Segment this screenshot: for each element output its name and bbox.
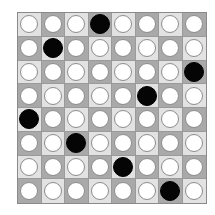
filled-piece-icon[interactable] [19,109,39,129]
empty-piece-icon[interactable] [161,15,179,33]
board-cell-r1-c4[interactable] [112,37,136,61]
board-cell-r0-c2[interactable] [65,13,89,37]
board-cell-r4-c2[interactable] [65,108,89,132]
empty-piece-icon[interactable] [161,134,179,152]
empty-piece-icon[interactable] [20,182,38,200]
empty-piece-icon[interactable] [138,39,156,57]
board-cell-r3-c2[interactable] [65,84,89,108]
board-cell-r1-c7[interactable] [183,37,207,61]
empty-piece-icon[interactable] [161,110,179,128]
empty-piece-icon[interactable] [67,110,85,128]
board-cell-r7-c0[interactable] [18,179,42,203]
board-cell-r6-c6[interactable] [159,156,183,180]
empty-piece-icon[interactable] [161,63,179,81]
empty-piece-icon[interactable] [91,87,109,105]
board-cell-r6-c4[interactable] [112,156,136,180]
empty-piece-icon[interactable] [161,87,179,105]
board-cell-r3-c4[interactable] [112,84,136,108]
filled-piece-icon[interactable] [66,133,86,153]
board-cell-r0-c7[interactable] [183,13,207,37]
board-cell-r5-c0[interactable] [18,132,42,156]
empty-piece-icon[interactable] [138,63,156,81]
board-cell-r0-c6[interactable] [159,13,183,37]
board-cell-r2-c3[interactable] [89,61,113,85]
board-cell-r2-c7[interactable] [183,61,207,85]
empty-piece-icon[interactable] [185,182,203,200]
empty-piece-icon[interactable] [138,110,156,128]
empty-piece-icon[interactable] [114,15,132,33]
board-cell-r3-c7[interactable] [183,84,207,108]
board-cell-r6-c5[interactable] [136,156,160,180]
empty-piece-icon[interactable] [67,63,85,81]
empty-piece-icon[interactable] [114,182,132,200]
empty-piece-icon[interactable] [91,110,109,128]
board-cell-r6-c0[interactable] [18,156,42,180]
board-cell-r5-c4[interactable] [112,132,136,156]
empty-piece-icon[interactable] [185,110,203,128]
empty-piece-icon[interactable] [44,110,62,128]
board-cell-r7-c5[interactable] [136,179,160,203]
empty-piece-icon[interactable] [185,158,203,176]
empty-piece-icon[interactable] [138,134,156,152]
board-cell-r1-c2[interactable] [65,37,89,61]
filled-piece-icon[interactable] [113,157,133,177]
board-cell-r5-c2[interactable] [65,132,89,156]
empty-piece-icon[interactable] [114,39,132,57]
board-cell-r7-c7[interactable] [183,179,207,203]
empty-piece-icon[interactable] [20,63,38,81]
board-cell-r3-c3[interactable] [89,84,113,108]
board-cell-r2-c5[interactable] [136,61,160,85]
empty-piece-icon[interactable] [20,39,38,57]
board-cell-r5-c5[interactable] [136,132,160,156]
board-cell-r2-c2[interactable] [65,61,89,85]
empty-piece-icon[interactable] [91,182,109,200]
empty-piece-icon[interactable] [114,87,132,105]
board-cell-r5-c6[interactable] [159,132,183,156]
board-cell-r0-c5[interactable] [136,13,160,37]
board-cell-r2-c0[interactable] [18,61,42,85]
board-cell-r1-c6[interactable] [159,37,183,61]
empty-piece-icon[interactable] [44,182,62,200]
board-cell-r1-c0[interactable] [18,37,42,61]
board-cell-r4-c7[interactable] [183,108,207,132]
board-cell-r7-c2[interactable] [65,179,89,203]
board-cell-r6-c3[interactable] [89,156,113,180]
board-cell-r7-c3[interactable] [89,179,113,203]
empty-piece-icon[interactable] [185,15,203,33]
board-cell-r5-c3[interactable] [89,132,113,156]
empty-piece-icon[interactable] [44,63,62,81]
board-cell-r4-c0[interactable] [18,108,42,132]
empty-piece-icon[interactable] [44,87,62,105]
empty-piece-icon[interactable] [44,158,62,176]
empty-piece-icon[interactable] [20,134,38,152]
board-cell-r7-c4[interactable] [112,179,136,203]
board-cell-r1-c5[interactable] [136,37,160,61]
empty-piece-icon[interactable] [91,63,109,81]
filled-piece-icon[interactable] [160,181,180,201]
board-cell-r3-c6[interactable] [159,84,183,108]
filled-piece-icon[interactable] [184,62,204,82]
board-cell-r4-c4[interactable] [112,108,136,132]
board-cell-r4-c1[interactable] [42,108,66,132]
board-cell-r5-c7[interactable] [183,132,207,156]
board-cell-r2-c1[interactable] [42,61,66,85]
empty-piece-icon[interactable] [161,158,179,176]
empty-piece-icon[interactable] [67,15,85,33]
board-cell-r2-c4[interactable] [112,61,136,85]
empty-piece-icon[interactable] [114,134,132,152]
board-cell-r0-c4[interactable] [112,13,136,37]
board-cell-r2-c6[interactable] [159,61,183,85]
filled-piece-icon[interactable] [137,86,157,106]
empty-piece-icon[interactable] [161,39,179,57]
empty-piece-icon[interactable] [67,39,85,57]
empty-piece-icon[interactable] [91,39,109,57]
board-cell-r0-c3[interactable] [89,13,113,37]
empty-piece-icon[interactable] [67,87,85,105]
board-cell-r7-c1[interactable] [42,179,66,203]
board-cell-r7-c6[interactable] [159,179,183,203]
empty-piece-icon[interactable] [67,158,85,176]
board-cell-r4-c6[interactable] [159,108,183,132]
empty-piece-icon[interactable] [114,63,132,81]
board-cell-r6-c7[interactable] [183,156,207,180]
empty-piece-icon[interactable] [44,134,62,152]
